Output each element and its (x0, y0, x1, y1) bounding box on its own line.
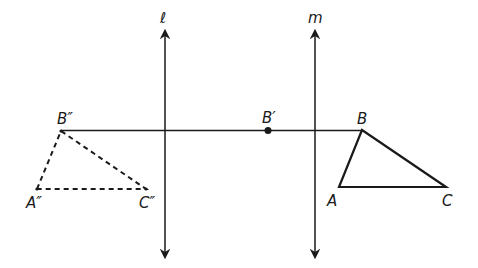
vertex-a-label: A (326, 192, 337, 210)
vertex-c2-dot (144, 187, 147, 190)
vertex-c-label: C (442, 192, 453, 210)
vertex-a2-label: A″ (25, 194, 42, 212)
point-b-prime-label: B′ (262, 109, 276, 127)
vertex-b-label: B (357, 110, 367, 128)
reflection-diagram: ℓ m A B C A″ B″ C″ B′ (0, 0, 478, 268)
vertex-b2-dot (59, 129, 62, 132)
vertex-a2-dot (35, 187, 38, 190)
line-l-label: ℓ (159, 9, 166, 27)
line-m-label: m (308, 9, 323, 27)
vertex-c2-label: C″ (139, 194, 155, 212)
vertex-b2-label: B″ (57, 110, 73, 128)
point-b-prime (265, 127, 272, 134)
triangle-abc (339, 130, 446, 187)
triangle-a2b2c2 (37, 131, 146, 189)
